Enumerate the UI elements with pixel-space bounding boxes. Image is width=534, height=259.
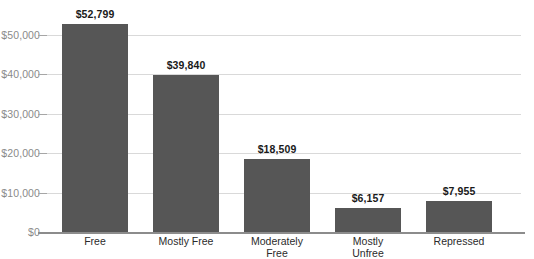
tick-mark-40000 (38, 74, 47, 75)
y-tick-label-40000: $40,000 (1, 68, 40, 80)
bar-value-mostly-free: $39,840 (153, 59, 219, 71)
bar-value-repressed: $7,955 (426, 185, 492, 197)
tick-mark-20000 (38, 153, 47, 154)
x-axis-line (38, 232, 525, 234)
y-tick-label-30000: $30,000 (1, 108, 40, 120)
y-tick-label-10000: $10,000 (1, 187, 40, 199)
tick-mark-10000 (38, 193, 47, 194)
bar-mostly-unfree (335, 208, 401, 232)
bar-chart: $0 $10,000 $20,000 $30,000 $40,000 $50,0… (0, 0, 534, 259)
bar-value-moderately-free: $18,509 (244, 143, 310, 155)
x-tick-label-mostly-free: Mostly Free (143, 236, 229, 248)
x-tick-label-line-1: Moderately (251, 235, 303, 247)
y-tick-label-20000: $20,000 (1, 147, 40, 159)
bar-repressed (426, 201, 492, 232)
y-axis-labels: $0 $10,000 $20,000 $30,000 $40,000 $50,0… (0, 0, 46, 259)
x-tick-label-free: Free (52, 236, 138, 248)
x-tick-label-line-2: Unfree (352, 247, 384, 259)
plot-area: $52,799 $39,840 $18,509 $6,157 $7,955 Fr… (46, 0, 521, 259)
x-tick-label-line-2: Free (266, 247, 288, 259)
x-tick-label-mostly-unfree: MostlyUnfree (325, 236, 411, 259)
bar-value-mostly-unfree: $6,157 (335, 192, 401, 204)
bar-moderately-free (244, 159, 310, 232)
y-tick-label-50000: $50,000 (1, 29, 40, 41)
x-tick-label-line-1: Mostly (353, 235, 383, 247)
bar-mostly-free (153, 75, 219, 232)
bar-value-free: $52,799 (62, 8, 128, 20)
bar-free (62, 24, 128, 232)
tick-mark-50000 (38, 35, 47, 36)
x-tick-label-repressed: Repressed (416, 236, 502, 248)
x-tick-label-moderately-free: ModeratelyFree (234, 236, 320, 259)
tick-mark-30000 (38, 114, 47, 115)
